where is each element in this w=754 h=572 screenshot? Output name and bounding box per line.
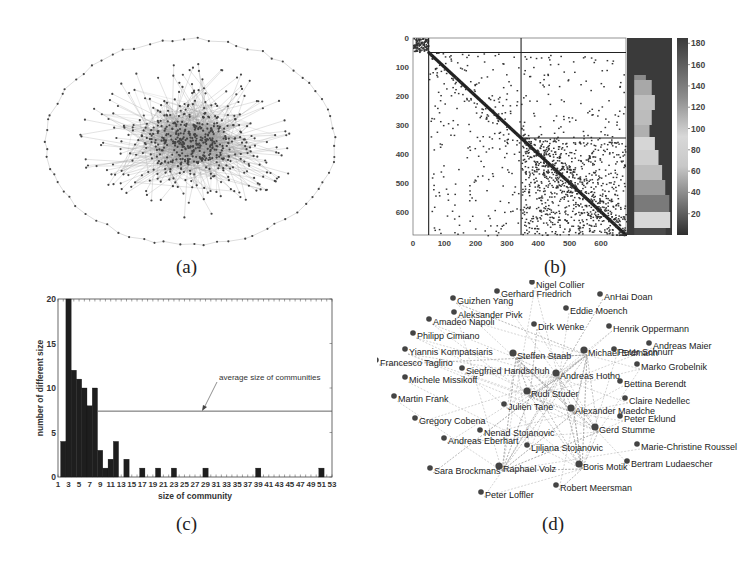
svg-text:10: 10	[47, 383, 57, 393]
svg-text:Boris Motik: Boris Motik	[583, 462, 628, 472]
svg-text:5: 5	[77, 480, 82, 489]
svg-text:200: 200	[396, 92, 410, 101]
svg-text:Marie-Christine Roussel: Marie-Christine Roussel	[641, 442, 737, 452]
coauthor-network: Nigel CollierGerhard FriedrichAnHai Doan…	[377, 280, 754, 515]
svg-text:Peter Eklund: Peter Eklund	[624, 414, 676, 424]
x-axis-label: size of community	[158, 491, 232, 501]
svg-text:Peter Loffler: Peter Loffler	[485, 490, 534, 500]
svg-text:Guizhen Yang: Guizhen Yang	[457, 296, 513, 306]
svg-text:Sara Brockmans: Sara Brockmans	[434, 466, 501, 476]
panel-c: 0510152013579111315171921232527293133353…	[0, 280, 377, 572]
network-node: Peter Loffler	[478, 489, 534, 500]
svg-text:Francesco Taglino: Francesco Taglino	[380, 358, 453, 368]
svg-text:100: 100	[691, 124, 705, 134]
svg-text:11: 11	[106, 480, 115, 489]
network-node: Michele Missikoff	[402, 374, 478, 385]
network-node: Martin Frank	[391, 393, 449, 404]
svg-text:AnHai Doan: AnHai Doan	[604, 292, 653, 302]
svg-text:500: 500	[396, 179, 410, 188]
network-node: Rudi Studer	[523, 387, 578, 399]
svg-text:3: 3	[66, 480, 71, 489]
svg-text:180: 180	[691, 38, 705, 48]
svg-text:Ljiljana Stojanovic: Ljiljana Stojanovic	[531, 443, 604, 453]
caption-d: (d)	[542, 513, 564, 535]
adjacency-matrix-chart: 0100200300400500600010020030040050060018…	[377, 0, 754, 255]
svg-text:17: 17	[138, 480, 147, 489]
svg-text:Andreas Hotho: Andreas Hotho	[560, 371, 620, 381]
svg-text:Julien Tane: Julien Tane	[508, 402, 553, 412]
network-node: Robert Meersman	[553, 482, 632, 493]
svg-text:Andreas Eberhart: Andreas Eberhart	[448, 436, 519, 446]
svg-text:80: 80	[691, 145, 701, 155]
caption-a: (a)	[176, 256, 197, 278]
svg-text:400: 400	[532, 239, 546, 248]
svg-text:Bertram Ludaescher: Bertram Ludaescher	[631, 459, 713, 469]
network-node: Peter Schnurr	[611, 346, 673, 357]
svg-text:Henrik Oppermann: Henrik Oppermann	[613, 324, 689, 334]
svg-text:37: 37	[243, 480, 252, 489]
colorbar	[677, 38, 688, 235]
svg-text:15: 15	[47, 339, 57, 349]
svg-text:200: 200	[469, 239, 483, 248]
svg-text:20: 20	[691, 209, 701, 219]
svg-text:120: 120	[691, 102, 705, 112]
svg-text:Marko Grobelnik: Marko Grobelnik	[641, 362, 708, 372]
svg-text:Robert Meersman: Robert Meersman	[560, 483, 632, 493]
svg-text:0: 0	[411, 239, 416, 248]
svg-text:31: 31	[212, 480, 221, 489]
svg-text:300: 300	[500, 239, 514, 248]
svg-text:1: 1	[56, 480, 61, 489]
network-node: Sara Brockmans	[427, 465, 501, 476]
svg-text:43: 43	[275, 480, 284, 489]
svg-text:Martin Frank: Martin Frank	[398, 394, 449, 404]
svg-text:Claire Nedellec: Claire Nedellec	[629, 396, 691, 406]
network-node: Amadeo Napoli	[426, 316, 494, 327]
svg-text:7: 7	[87, 480, 92, 489]
svg-text:160: 160	[691, 60, 705, 70]
network-node: Philipp Cimiano	[410, 330, 479, 341]
network-node: Bettina Berendt	[617, 378, 686, 389]
svg-text:25: 25	[180, 480, 189, 489]
network-node: AnHai Doan	[597, 291, 652, 302]
svg-text:9: 9	[98, 480, 103, 489]
network-node: Marie-Christine Roussel	[634, 441, 737, 452]
nodes: Nigel CollierGerhard FriedrichAnHai Doan…	[377, 280, 737, 500]
y-axis-label: number of different size	[35, 340, 45, 437]
svg-text:100: 100	[438, 239, 452, 248]
svg-text:0: 0	[405, 34, 410, 43]
nodes	[44, 37, 337, 247]
svg-text:100: 100	[396, 63, 410, 72]
panel-d: Nigel CollierGerhard FriedrichAnHai Doan…	[377, 280, 754, 572]
svg-text:Amadeo Napoli: Amadeo Napoli	[433, 317, 495, 327]
svg-text:27: 27	[191, 480, 200, 489]
network-node: Marko Grobelnik	[634, 361, 707, 372]
svg-text:13: 13	[117, 480, 126, 489]
network-node: Bertram Ludaescher	[624, 458, 712, 469]
svg-text:Raphael Volz: Raphael Volz	[503, 464, 557, 474]
panel-b: 0100200300400500600010020030040050060018…	[377, 0, 754, 290]
svg-text:23: 23	[169, 480, 178, 489]
svg-text:Siegfried Handschuh: Siegfried Handschuh	[466, 366, 550, 376]
svg-text:Peter Schnurr: Peter Schnurr	[618, 347, 674, 357]
svg-text:40: 40	[691, 187, 701, 197]
network-graph-a	[0, 0, 377, 255]
svg-text:21: 21	[159, 480, 168, 489]
network-node: Steffen Staab	[509, 349, 571, 361]
svg-text:Dirk Wenke: Dirk Wenke	[538, 322, 584, 332]
svg-text:47: 47	[296, 480, 305, 489]
svg-text:Yiannis Kompatsiaris: Yiannis Kompatsiaris	[409, 347, 493, 357]
community-side-bar	[627, 38, 672, 235]
svg-text:20: 20	[47, 294, 57, 304]
svg-text:Eddie Moench: Eddie Moench	[570, 306, 628, 316]
svg-text:49: 49	[306, 480, 315, 489]
svg-text:Steffen Staab: Steffen Staab	[517, 351, 571, 361]
network-node: Claire Nedellec	[622, 395, 690, 406]
svg-text:53: 53	[328, 480, 337, 489]
svg-text:Bettina Berendt: Bettina Berendt	[624, 379, 687, 389]
network-node: Dirk Wenke	[531, 321, 584, 332]
svg-text:Gregory Cobena: Gregory Cobena	[419, 416, 486, 426]
caption-b: (b)	[544, 256, 566, 278]
svg-text:45: 45	[285, 480, 294, 489]
network-node: Yiannis Kompatsiaris	[402, 346, 493, 357]
average-annotation: average size of communities	[219, 373, 320, 382]
